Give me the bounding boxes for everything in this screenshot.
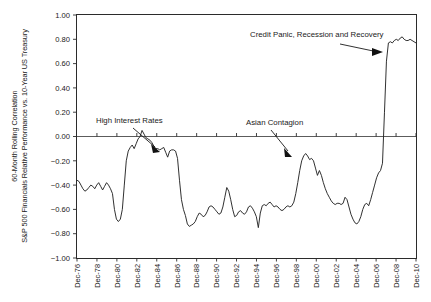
x-tick-label: Dec-90 bbox=[212, 264, 221, 288]
y-tick-label: 1.00 bbox=[55, 11, 70, 20]
y-tick-label: −0.80 bbox=[51, 229, 70, 238]
annotation-asian-contagion: Asian Contagion bbox=[246, 118, 303, 157]
y-tick-label: 0.20 bbox=[55, 108, 70, 117]
y-tick-label: −1.00 bbox=[51, 254, 70, 263]
x-tick-label: Dec-80 bbox=[113, 264, 122, 288]
annotation-arrow-credit-panic bbox=[372, 48, 383, 56]
x-tick-label: Dec-98 bbox=[292, 264, 301, 288]
annotation-high-interest-rates: High Interest Rates bbox=[96, 116, 163, 153]
x-tick-label: Dec-02 bbox=[332, 264, 341, 288]
x-tick-label: Dec-10 bbox=[412, 264, 421, 288]
x-tick-label: Dec-06 bbox=[372, 264, 381, 288]
y-tick-label: −0.20 bbox=[51, 157, 70, 166]
x-tick-label: Dec-04 bbox=[352, 264, 361, 288]
y-axis-title: 60-Month Rolling Correlation S&P 500 Fin… bbox=[10, 29, 29, 243]
annotation-credit-panic: Credit Panic, Recession and Recovery bbox=[250, 30, 384, 56]
y-tick-label: −0.60 bbox=[51, 205, 70, 214]
x-tick-label: Dec-92 bbox=[232, 264, 241, 288]
annotation-label-credit-panic: Credit Panic, Recession and Recovery bbox=[250, 30, 384, 39]
annotation-leader-asian-contagion bbox=[271, 130, 288, 151]
annotation-arrow-high-interest-rates bbox=[151, 144, 160, 153]
y-axis-title-line-2: S&P 500 Financials Relative Performance … bbox=[20, 29, 29, 243]
x-tick-label: Dec-94 bbox=[252, 264, 261, 288]
x-tick-label: Dec-76 bbox=[73, 264, 82, 288]
x-tick-label: Dec-82 bbox=[133, 264, 142, 288]
x-tick-label: Dec-78 bbox=[93, 264, 102, 288]
x-tick-label: Dec-88 bbox=[192, 264, 201, 288]
x-axis-ticks: Dec-76Dec-78Dec-80Dec-82Dec-84Dec-86Dec-… bbox=[73, 258, 421, 288]
chart-figure: 60-Month Rolling Correlation S&P 500 Fin… bbox=[0, 0, 431, 302]
y-tick-label: −0.40 bbox=[51, 181, 70, 190]
annotation-arrow-asian-contagion bbox=[284, 148, 292, 157]
x-tick-label: Dec-84 bbox=[153, 264, 162, 288]
y-tick-label: 0.80 bbox=[55, 35, 70, 44]
correlation-series-line bbox=[77, 37, 416, 228]
x-tick-label: Dec-08 bbox=[392, 264, 401, 288]
y-axis-ticks: 1.000.800.600.400.200.00−0.20−0.40−0.60−… bbox=[51, 11, 77, 263]
y-tick-label: 0.60 bbox=[55, 59, 70, 68]
x-tick-label: Dec-96 bbox=[272, 264, 281, 288]
y-tick-label: 0.00 bbox=[55, 132, 70, 141]
y-axis-title-line-1: 60-Month Rolling Correlation bbox=[10, 90, 19, 181]
x-tick-label: Dec-00 bbox=[312, 264, 321, 288]
correlation-line-chart: 60-Month Rolling Correlation S&P 500 Fin… bbox=[0, 0, 431, 302]
x-tick-label: Dec-86 bbox=[173, 264, 182, 288]
y-tick-label: 0.40 bbox=[55, 84, 70, 93]
annotation-label-asian-contagion: Asian Contagion bbox=[246, 118, 303, 127]
annotation-label-high-interest-rates: High Interest Rates bbox=[96, 116, 163, 125]
